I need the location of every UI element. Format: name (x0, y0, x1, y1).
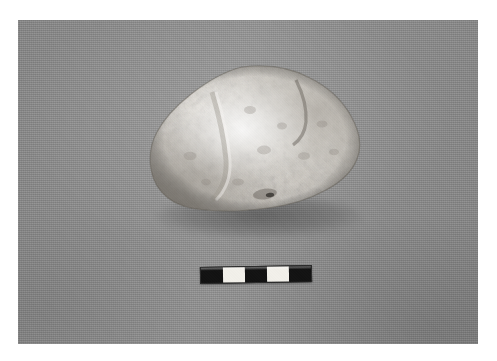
scale-bar-segment (267, 266, 289, 281)
scale-bar (200, 265, 312, 284)
scale-bar-segment (245, 267, 267, 282)
scale-bar-segment (289, 266, 311, 281)
stone-rim-shading (146, 64, 364, 214)
photo-plate-backdrop (18, 20, 478, 344)
scale-bar-segment (201, 268, 223, 283)
artifact-photograph-figure (0, 0, 497, 361)
stone-artifact (146, 64, 364, 214)
scale-bar-segment (223, 267, 245, 282)
stone-body-group (146, 64, 364, 214)
